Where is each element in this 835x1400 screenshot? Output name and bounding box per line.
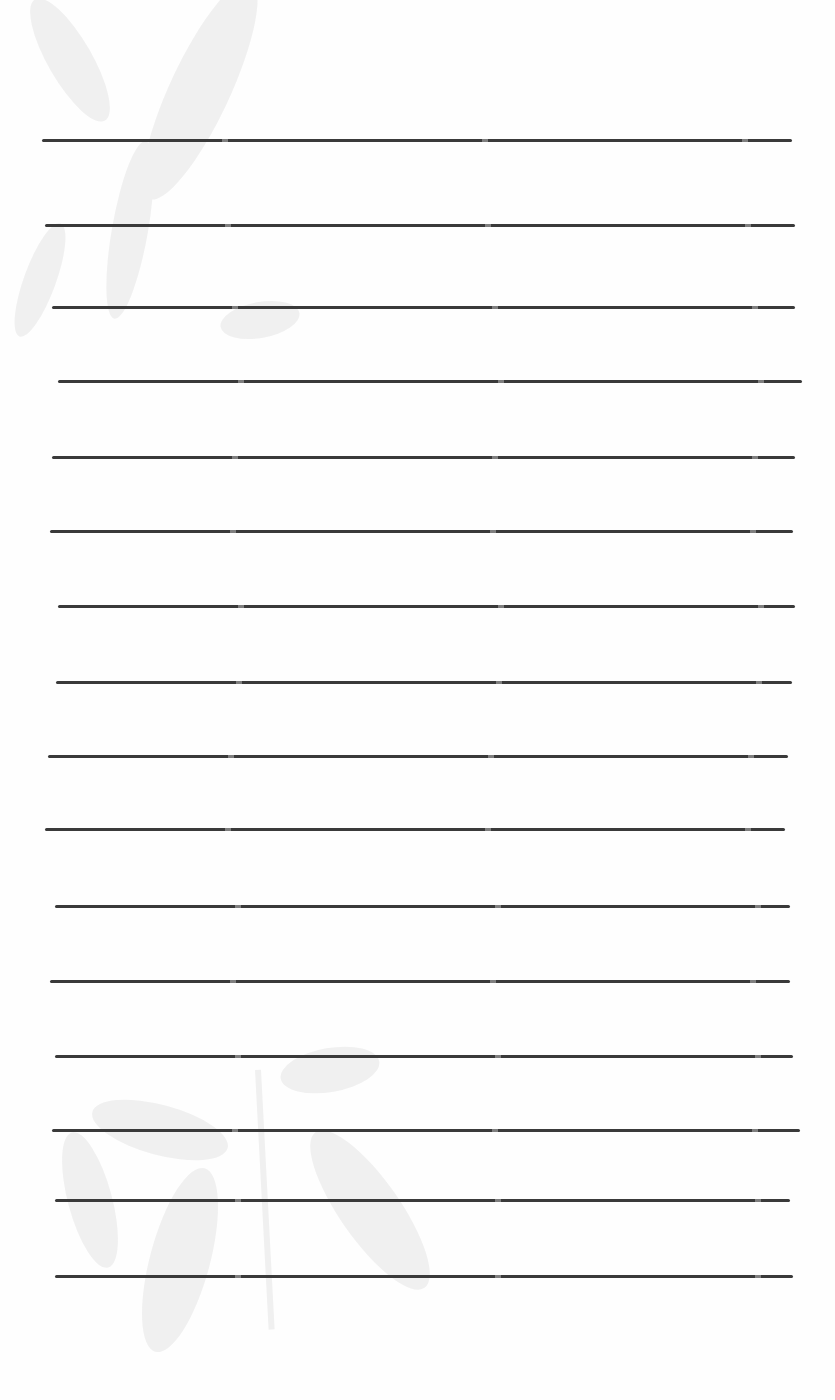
ruled-line (48, 755, 788, 758)
ruled-line (50, 980, 790, 983)
ruled-line (42, 139, 792, 142)
ruled-line (52, 1129, 800, 1132)
ruled-line (58, 380, 802, 383)
ruled-line (52, 306, 795, 309)
ruled-line (58, 605, 795, 608)
lined-paper-page (0, 0, 835, 1400)
ruled-line (55, 1199, 790, 1202)
ruled-line (50, 530, 793, 533)
bamboo-leaf-watermark-top-icon (0, 0, 360, 380)
ruled-line (45, 828, 785, 831)
ruled-line (55, 905, 790, 908)
ruled-line (55, 1275, 793, 1278)
ruled-line (45, 224, 795, 227)
ruled-line (52, 456, 795, 459)
ruled-line (55, 1055, 793, 1058)
ruled-line (56, 681, 792, 684)
